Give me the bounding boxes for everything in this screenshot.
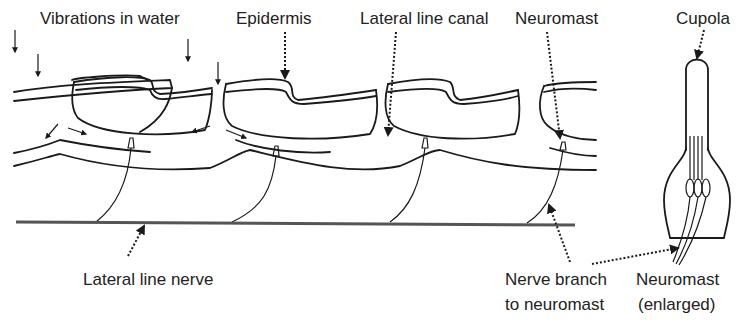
label-vibrations: Vibrations in water [40,9,180,28]
label-cupola: Cupola [676,9,730,28]
canal-neuromasts [128,138,566,156]
label-lateral-line-nerve: Lateral line nerve [83,270,213,289]
nerve-branches [96,148,563,223]
pointer-lines [128,30,704,264]
lateral-line-diagram: Vibrations in water Epidermis Lateral li… [0,0,741,328]
label-nerve-branch-2: to neuromast [505,295,604,314]
label-neuromast: Neuromast [515,9,598,28]
enlarged-neuromast [664,60,730,266]
label-neuromast-enlarged-1: Neuromast [636,270,719,289]
lateral-line-nerve [16,222,575,225]
label-neuromast-enlarged-2: (enlarged) [638,295,716,314]
canal-flow-arrows [46,124,246,138]
label-nerve-branch-1: Nerve branch [505,270,607,289]
label-epidermis: Epidermis [236,9,312,28]
epidermis-canal [14,75,596,170]
label-lateral-line-canal: Lateral line canal [360,9,489,28]
